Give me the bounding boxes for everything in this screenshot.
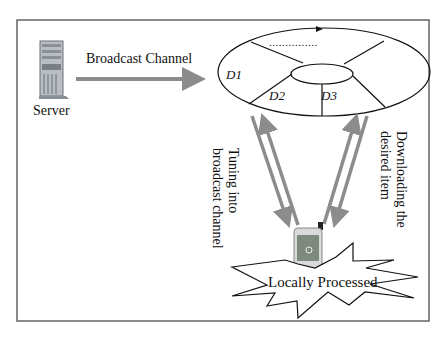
segment-d2: D2 <box>269 88 285 104</box>
process-label: Locally Processed <box>268 274 378 291</box>
segment-d3: D3 <box>321 88 337 104</box>
segment-d1: D1 <box>226 67 242 83</box>
tuning-label-line2: broadcast channel <box>210 148 225 249</box>
download-label-line2: desired item <box>378 131 393 200</box>
segment-ellipsis: ............... <box>269 36 318 48</box>
pda-device-icon <box>294 222 323 270</box>
tuning-label-line1: Tuning into <box>226 148 241 213</box>
download-label: Downloading the desired item <box>377 131 409 228</box>
diagram-canvas: Server Broadcast Channel D1 D2 D3 ......… <box>0 0 445 337</box>
signal-arrows <box>252 116 367 225</box>
download-label-line1: Downloading the <box>394 131 409 228</box>
server-icon <box>39 41 69 99</box>
channel-label: Broadcast Channel <box>86 51 192 67</box>
tuning-label: Tuning into broadcast channel <box>209 148 241 249</box>
server-label: Server <box>33 103 70 119</box>
